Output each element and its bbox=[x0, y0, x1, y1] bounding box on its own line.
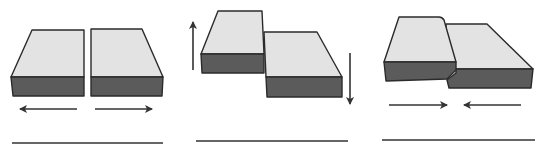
block-lowered bbox=[264, 32, 342, 97]
block-left bbox=[384, 17, 456, 81]
fault-diagram bbox=[0, 0, 546, 148]
block-left bbox=[11, 30, 84, 96]
panel-divergent bbox=[11, 29, 163, 143]
panel-vertical-offset bbox=[193, 11, 350, 141]
panel-convergent bbox=[382, 17, 535, 140]
block-right bbox=[91, 29, 163, 96]
block-raised bbox=[201, 11, 264, 73]
block-right bbox=[446, 24, 533, 88]
